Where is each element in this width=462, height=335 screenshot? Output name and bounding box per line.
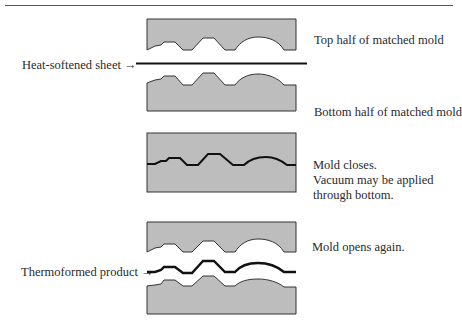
closed-mold bbox=[147, 133, 296, 192]
bottom-mold-reopened bbox=[147, 276, 296, 314]
thermoformed-product bbox=[147, 261, 296, 273]
mold-opens-label: Mold opens again. bbox=[312, 240, 405, 255]
top-mold bbox=[147, 19, 296, 50]
thermoformed-product-label: Thermoformed product → bbox=[21, 265, 154, 280]
vacuum-label-line1: Vacuum may be applied bbox=[313, 173, 433, 188]
heat-softened-sheet-label: Heat-softened sheet → bbox=[22, 58, 137, 73]
bottom-mold-label: Bottom half of matched mold bbox=[314, 105, 462, 120]
top-mold-label: Top half of matched mold bbox=[314, 33, 444, 48]
vacuum-label-line2: through bottom. bbox=[313, 188, 394, 203]
mold-closes-label: Mold closes. bbox=[313, 158, 377, 173]
top-mold-reopened bbox=[147, 222, 296, 252]
bottom-mold bbox=[147, 73, 296, 111]
